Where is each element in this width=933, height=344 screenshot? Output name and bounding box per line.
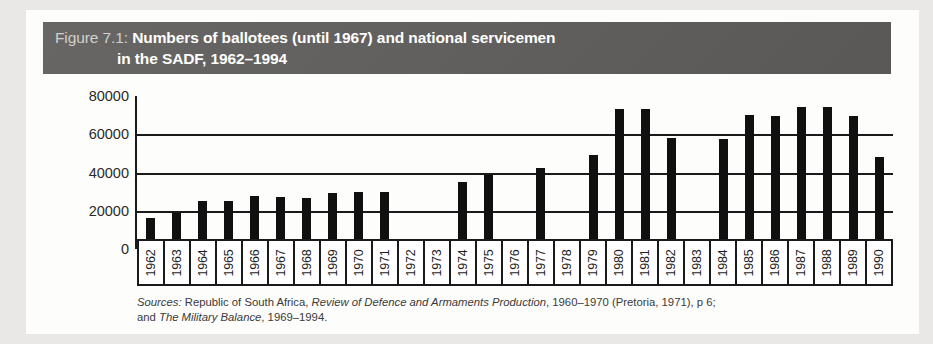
x-axis-year-labels: 1962196319641965196619671968196919701971… bbox=[137, 239, 893, 286]
x-tick-cell-1980: 1980 bbox=[605, 241, 631, 284]
x-tick-label-1970: 1970 bbox=[352, 249, 366, 276]
bar-slot-1978 bbox=[554, 96, 580, 249]
sources-line-1: Sources: Republic of South Africa, Revie… bbox=[137, 295, 897, 310]
y-tick-label-0: 0 bbox=[39, 242, 129, 257]
bar-1975 bbox=[484, 175, 493, 249]
bar-1980 bbox=[615, 109, 624, 249]
x-tick-label-1989: 1989 bbox=[846, 249, 860, 276]
x-tick-cell-1975: 1975 bbox=[475, 241, 501, 284]
sources-label: Sources: bbox=[137, 296, 182, 308]
x-tick-cell-1969: 1969 bbox=[319, 241, 345, 284]
figure-caption: Figure 7.1: Numbers of ballotees (until … bbox=[55, 27, 885, 69]
x-tick-label-1964: 1964 bbox=[196, 249, 210, 276]
x-tick-label-1975: 1975 bbox=[482, 249, 496, 276]
bar-1984 bbox=[719, 139, 728, 249]
bar-1986 bbox=[771, 116, 780, 249]
y-tick-label-40000: 40000 bbox=[39, 166, 129, 181]
bar-slot-1979 bbox=[580, 96, 606, 249]
x-tick-label-1979: 1979 bbox=[586, 249, 600, 276]
x-tick-cell-1984: 1984 bbox=[709, 241, 735, 284]
x-tick-cell-1974: 1974 bbox=[449, 241, 475, 284]
bar-1981 bbox=[641, 109, 650, 249]
bar-slot-1985 bbox=[736, 96, 762, 249]
x-tick-label-1967: 1967 bbox=[274, 249, 288, 276]
x-tick-cell-1964: 1964 bbox=[189, 241, 215, 284]
bar-slot-1983 bbox=[684, 96, 710, 249]
bar-slot-1969 bbox=[319, 96, 345, 249]
bar-slot-1973 bbox=[424, 96, 450, 249]
bar-slot-1975 bbox=[476, 96, 502, 249]
x-tick-cell-1973: 1973 bbox=[423, 241, 449, 284]
x-tick-label-1987: 1987 bbox=[794, 249, 808, 276]
x-tick-label-1963: 1963 bbox=[170, 249, 184, 276]
y-tick-label-20000: 20000 bbox=[39, 204, 129, 219]
x-tick-cell-1989: 1989 bbox=[839, 241, 865, 284]
figure-header-bar: Figure 7.1: Numbers of ballotees (until … bbox=[43, 22, 891, 74]
bar-slot-1990 bbox=[867, 96, 893, 249]
page-edge-bottom bbox=[0, 334, 933, 344]
bar-slot-1976 bbox=[502, 96, 528, 249]
bar-slot-1989 bbox=[841, 96, 867, 249]
bar-1989 bbox=[849, 116, 858, 249]
bar-slot-1963 bbox=[163, 96, 189, 249]
x-tick-cell-1970: 1970 bbox=[345, 241, 371, 284]
x-tick-cell-1971: 1971 bbox=[371, 241, 397, 284]
bar-1987 bbox=[797, 107, 806, 249]
bar-slot-1962 bbox=[137, 96, 163, 249]
x-tick-label-1990: 1990 bbox=[872, 249, 886, 276]
x-tick-label-1988: 1988 bbox=[820, 249, 834, 276]
x-tick-label-1978: 1978 bbox=[560, 249, 574, 276]
x-tick-label-1969: 1969 bbox=[326, 249, 340, 276]
sources-line1-a: Republic of South Africa, bbox=[182, 296, 312, 308]
figure-title-line2: in the SADF, 1962–1994 bbox=[117, 48, 885, 69]
bar-slot-1965 bbox=[215, 96, 241, 249]
bar-slot-1968 bbox=[293, 96, 319, 249]
x-tick-cell-1987: 1987 bbox=[787, 241, 813, 284]
x-tick-label-1982: 1982 bbox=[664, 249, 678, 276]
sources-line2-a: and bbox=[137, 311, 159, 323]
bar-slot-1972 bbox=[398, 96, 424, 249]
x-tick-label-1972: 1972 bbox=[404, 249, 418, 276]
bar-1988 bbox=[823, 107, 832, 249]
x-tick-label-1981: 1981 bbox=[638, 249, 652, 276]
x-tick-label-1962: 1962 bbox=[144, 249, 158, 276]
x-tick-cell-1979: 1979 bbox=[579, 241, 605, 284]
x-tick-label-1983: 1983 bbox=[690, 249, 704, 276]
x-tick-cell-1986: 1986 bbox=[761, 241, 787, 284]
bar-series bbox=[137, 96, 893, 249]
sources-line1-italic: Review of Defence and Armaments Producti… bbox=[312, 296, 546, 308]
bar-slot-1982 bbox=[658, 96, 684, 249]
x-tick-label-1985: 1985 bbox=[742, 249, 756, 276]
y-tick-label-80000: 80000 bbox=[39, 89, 129, 104]
x-tick-cell-1965: 1965 bbox=[215, 241, 241, 284]
x-tick-label-1965: 1965 bbox=[222, 249, 236, 276]
bar-1982 bbox=[667, 138, 676, 249]
sources-note: Sources: Republic of South Africa, Revie… bbox=[137, 295, 897, 325]
bar-slot-1988 bbox=[815, 96, 841, 249]
figure-container: Figure 7.1: Numbers of ballotees (until … bbox=[0, 0, 933, 344]
bar-1979 bbox=[589, 155, 598, 249]
plot-area: 800006000040000200000 bbox=[137, 96, 893, 249]
x-tick-cell-1988: 1988 bbox=[813, 241, 839, 284]
x-tick-cell-1985: 1985 bbox=[735, 241, 761, 284]
bar-slot-1971 bbox=[372, 96, 398, 249]
sources-line1-b: , 1960–1970 (Pretoria, 1971), p 6; bbox=[546, 296, 716, 308]
bar-slot-1984 bbox=[710, 96, 736, 249]
page-edge-top bbox=[0, 0, 933, 10]
x-tick-label-1966: 1966 bbox=[248, 249, 262, 276]
page-edge-right bbox=[919, 0, 933, 344]
x-tick-cell-1977: 1977 bbox=[527, 241, 553, 284]
bar-1990 bbox=[875, 157, 884, 249]
x-tick-cell-1967: 1967 bbox=[267, 241, 293, 284]
bar-slot-1981 bbox=[632, 96, 658, 249]
x-tick-label-1980: 1980 bbox=[612, 249, 626, 276]
bar-slot-1980 bbox=[606, 96, 632, 249]
x-tick-cell-1962: 1962 bbox=[137, 241, 163, 284]
bar-slot-1974 bbox=[450, 96, 476, 249]
x-tick-cell-1968: 1968 bbox=[293, 241, 319, 284]
x-tick-cell-1972: 1972 bbox=[397, 241, 423, 284]
bar-slot-1964 bbox=[189, 96, 215, 249]
x-tick-cell-1982: 1982 bbox=[657, 241, 683, 284]
x-tick-cell-1983: 1983 bbox=[683, 241, 709, 284]
x-tick-cell-1990: 1990 bbox=[865, 241, 893, 284]
